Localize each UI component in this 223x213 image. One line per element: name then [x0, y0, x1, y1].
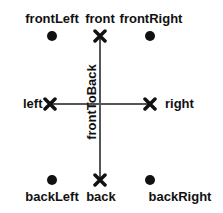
left-x-icon — [43, 97, 57, 111]
back-x-icon — [93, 173, 107, 187]
front-to-back-axis-label: frontToBack — [85, 64, 99, 140]
front-label: front — [85, 12, 115, 26]
front-back-axis — [99, 36, 101, 180]
back-label: back — [86, 190, 116, 204]
back-left-label: backLeft — [25, 190, 78, 204]
left-right-axis — [50, 103, 150, 105]
front-left-label: frontLeft — [25, 12, 78, 26]
back-left-dot-icon — [47, 175, 57, 185]
front-right-label: frontRight — [120, 12, 183, 26]
back-right-dot-icon — [145, 175, 155, 185]
front-left-dot-icon — [47, 31, 57, 41]
right-x-icon — [143, 97, 157, 111]
front-x-icon — [93, 29, 107, 43]
back-right-label: backRight — [149, 190, 212, 204]
front-right-dot-icon — [145, 31, 155, 41]
left-label: left — [23, 97, 43, 111]
right-label: right — [165, 97, 194, 111]
